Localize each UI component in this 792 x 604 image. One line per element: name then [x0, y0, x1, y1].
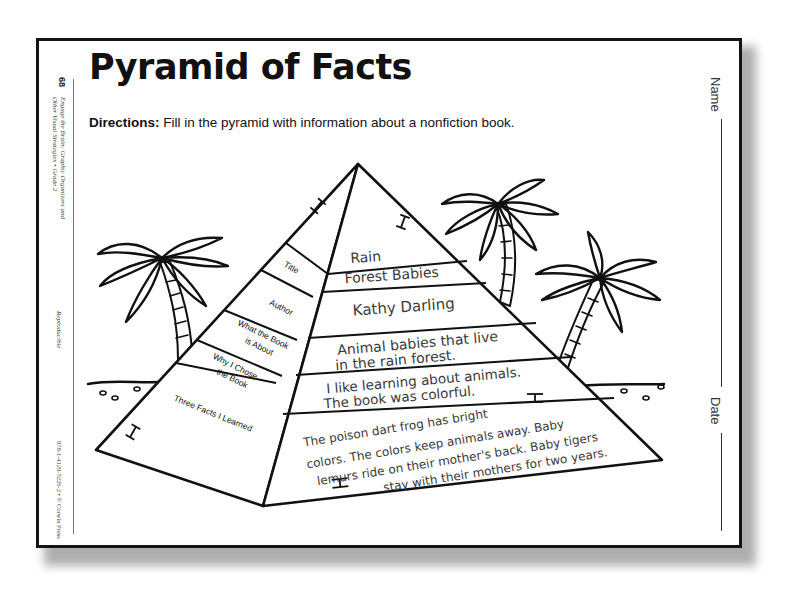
pebble-icon	[643, 396, 649, 400]
pebble-icon	[621, 389, 627, 393]
pebble-icon	[134, 387, 140, 391]
pebble-icon	[658, 385, 664, 389]
pebble-icon	[100, 391, 106, 395]
pyramid-illustration: Title Author What the Book is About Why …	[0, 0, 792, 604]
answer-title-1[interactable]: Rain	[350, 248, 382, 266]
ground-right	[578, 384, 664, 386]
palm-tree-right-icon	[536, 232, 660, 374]
pebble-icon	[112, 396, 118, 400]
